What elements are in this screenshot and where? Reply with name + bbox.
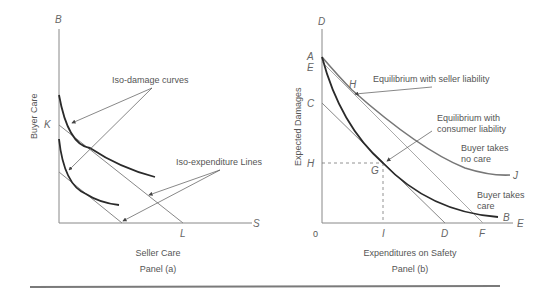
arrow-seller-liability [355,87,432,94]
point-label-j: J [512,170,519,181]
panel-b-x-axis-label: Expenditures on Safety [363,248,457,258]
label-buyer-takes-care-2: care [477,201,495,211]
iso-damage-curve-upper [59,95,155,177]
point-label-g: G [371,165,379,176]
panel-b-x-axis-end-label: E [517,218,524,229]
arrow-iso-damage-lower [69,88,152,170]
panel-b-origin-label: 0 [313,229,318,239]
panel-a-x-axis-end-label: S [253,218,260,229]
panel-a-x-axis-label: Seller Care [135,248,180,258]
y-label-c: C [307,98,315,109]
panel-a-caption: Panel (a) [140,264,177,274]
y-label-a: A [306,51,314,62]
panel-a-y-axis-end-label: B [55,14,62,25]
x-label-i: I [382,228,385,239]
panel-b-caption: Panel (b) [392,264,429,274]
panel-a-y-axis-label: Buyer Care [29,93,39,139]
panel-a-l-label: L [180,228,186,239]
annotation-consumer-liability-line1: Equilibrium with [437,113,500,123]
panel-b: D E 0 A E C H I D F Expected Damages H G… [293,16,525,274]
y-label-h: H [307,158,315,169]
label-buyer-takes-no-care-1: Buyer takes [461,143,509,153]
annotation-iso-damage: Iso-damage curves [112,75,189,85]
arrow-iso-damage-upper [72,88,152,123]
x-label-d: D [441,228,448,239]
annotation-consumer-liability-line2: consumer liability [437,124,507,134]
figure: B S K L Buyer Care Iso-damage curves Iso… [0,0,552,299]
label-buyer-takes-care-1: Buyer takes [477,190,525,200]
y-label-e: E [307,62,314,73]
panel-a: B S K L Buyer Care Iso-damage curves Iso… [29,14,263,274]
label-buyer-takes-no-care-2: no care [461,154,491,164]
x-label-f: F [479,228,486,239]
point-label-h: H [349,79,357,90]
panel-b-y-axis-end-label: D [318,16,325,27]
annotation-seller-liability: Equilibrium with seller liability [373,74,490,84]
line-e-to-f [322,62,483,223]
panel-a-k-label: K [44,119,52,130]
arrow-iso-expenditure-upper [149,170,220,195]
panel-b-y-axis-label: Expected Damages [293,87,303,166]
iso-expenditure-line-upper [59,125,183,223]
annotation-iso-expenditure: Iso-expenditure Lines [176,157,263,167]
bottom-rule [30,286,500,287]
point-label-b: B [503,212,510,223]
